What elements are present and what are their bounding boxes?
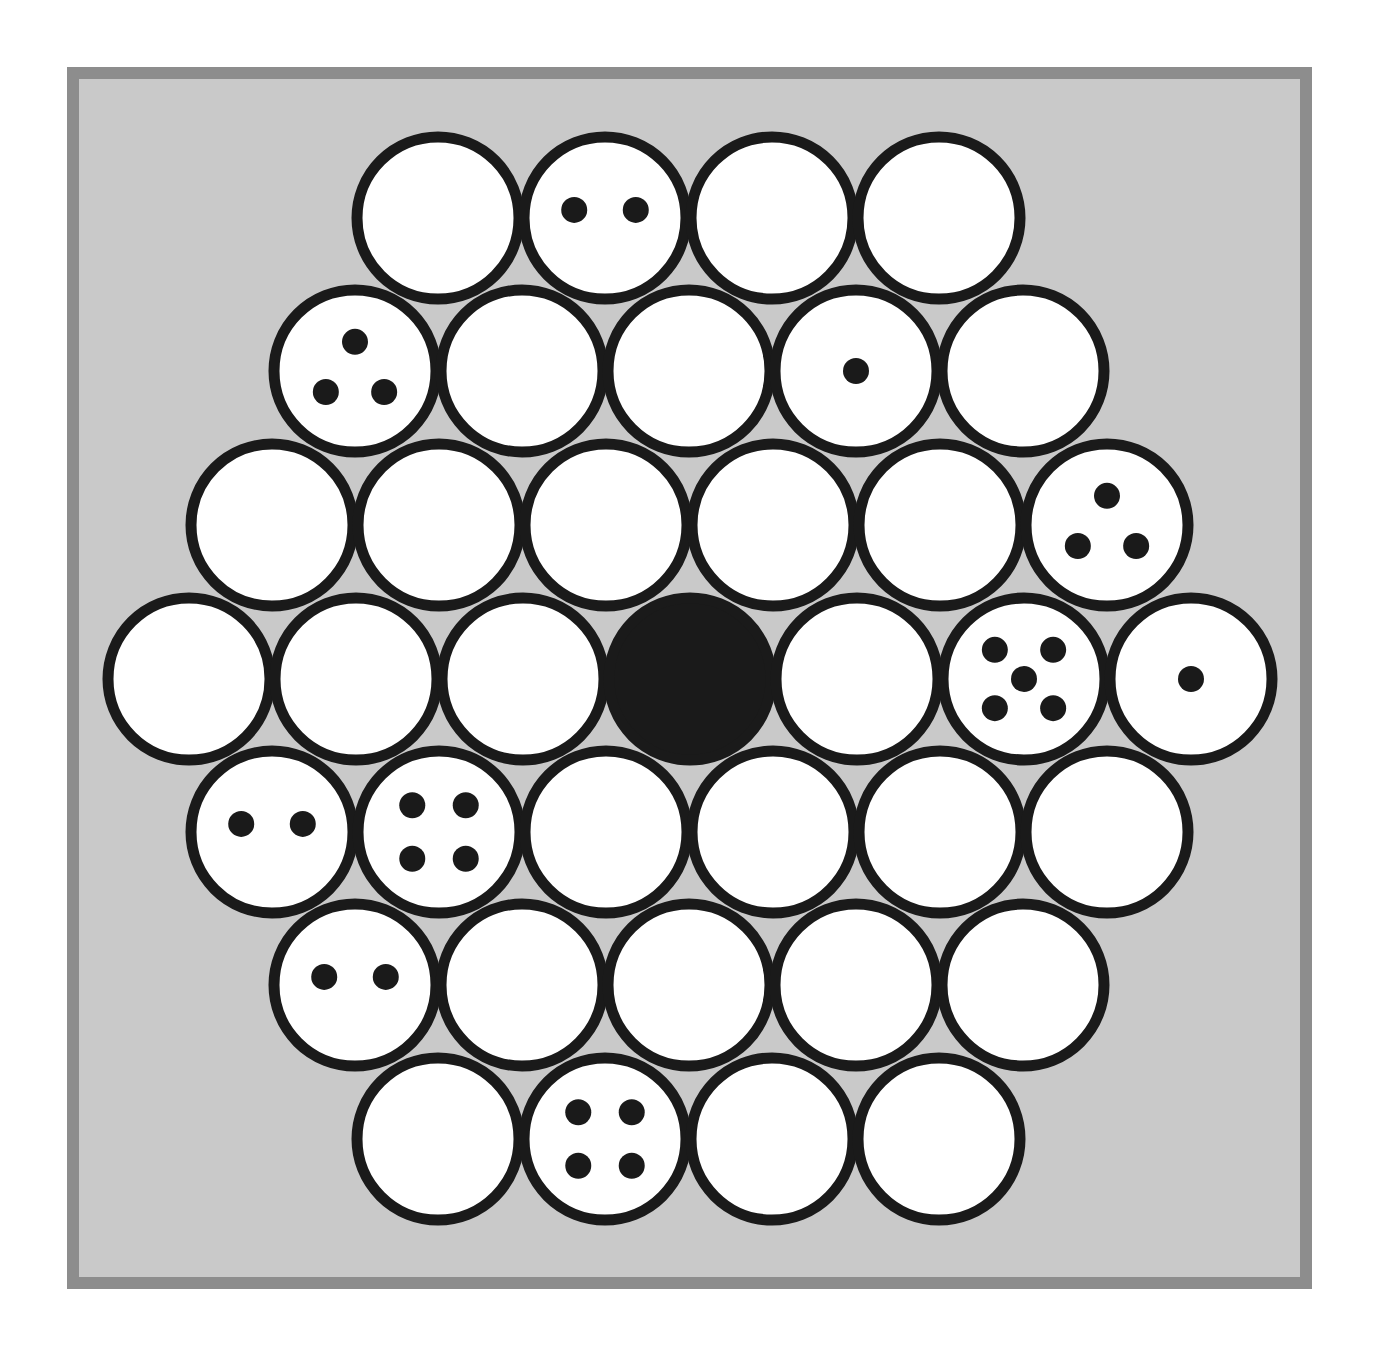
pip-dot-icon xyxy=(561,197,587,223)
circle-outline xyxy=(108,598,270,760)
circle-packing-board xyxy=(0,0,1376,1357)
board-cell-empty[interactable] xyxy=(442,598,604,760)
pip-dot-icon xyxy=(342,329,368,355)
pip-dot-icon xyxy=(619,1153,645,1179)
pip-dot-icon xyxy=(565,1153,591,1179)
pip-dot-icon xyxy=(453,792,479,818)
board-cell-empty[interactable] xyxy=(775,904,937,1066)
circle-outline xyxy=(942,904,1104,1066)
circle-outline xyxy=(357,1058,519,1220)
board-cell-empty[interactable] xyxy=(691,1058,853,1220)
board-row xyxy=(191,444,1188,606)
pip-dot-icon xyxy=(1094,483,1120,509)
board-cell-empty[interactable] xyxy=(608,290,770,452)
board-cell-dots-4[interactable] xyxy=(524,1058,686,1220)
pip-dot-icon xyxy=(453,846,479,872)
circle-outline xyxy=(942,290,1104,452)
board-cell-dots-3[interactable] xyxy=(1026,444,1188,606)
board-cell-dots-1[interactable] xyxy=(1110,598,1272,760)
pip-dot-icon xyxy=(1065,533,1091,559)
circle-outline xyxy=(776,598,938,760)
board-cell-empty[interactable] xyxy=(1026,751,1188,913)
circle-outline xyxy=(274,290,436,452)
circle-outline xyxy=(358,444,520,606)
circle-outline xyxy=(775,904,937,1066)
circle-outline xyxy=(691,1058,853,1220)
pip-dot-icon xyxy=(313,379,339,405)
circle-outline xyxy=(609,598,771,760)
pip-dot-icon xyxy=(228,811,254,837)
circle-outline xyxy=(357,137,519,299)
pip-dot-icon xyxy=(399,792,425,818)
circle-outline xyxy=(275,598,437,760)
pip-dot-icon xyxy=(565,1099,591,1125)
board-cell-dots-4[interactable] xyxy=(358,751,520,913)
pip-dot-icon xyxy=(1011,666,1037,692)
board-cell-empty[interactable] xyxy=(441,904,603,1066)
circle-outline xyxy=(191,751,353,913)
board-cell-empty[interactable] xyxy=(275,598,437,760)
screenshot-root xyxy=(0,0,1376,1357)
circle-outline xyxy=(692,444,854,606)
board-row xyxy=(357,1058,1020,1220)
circle-outline xyxy=(858,137,1020,299)
pip-dot-icon xyxy=(843,358,869,384)
circle-outline xyxy=(191,444,353,606)
board-cell-empty[interactable] xyxy=(858,137,1020,299)
board-row xyxy=(274,290,1104,452)
circle-outline xyxy=(858,1058,1020,1220)
circle-outline xyxy=(442,598,604,760)
board-cell-empty[interactable] xyxy=(358,444,520,606)
circle-outline xyxy=(441,904,603,1066)
board-cell-empty[interactable] xyxy=(942,904,1104,1066)
board-cell-dots-3[interactable] xyxy=(274,290,436,452)
board-row xyxy=(274,904,1104,1066)
pip-dot-icon xyxy=(619,1099,645,1125)
board-cell-filled[interactable] xyxy=(609,598,771,760)
pip-dot-icon xyxy=(1040,637,1066,663)
board-row xyxy=(357,137,1020,299)
board-cell-empty[interactable] xyxy=(858,1058,1020,1220)
circle-outline xyxy=(358,751,520,913)
board-cell-dots-1[interactable] xyxy=(775,290,937,452)
pip-dot-icon xyxy=(371,379,397,405)
circle-outline xyxy=(524,1058,686,1220)
circle-outline xyxy=(524,137,686,299)
circle-outline xyxy=(525,444,687,606)
board-cell-empty[interactable] xyxy=(525,751,687,913)
board-cell-empty[interactable] xyxy=(191,444,353,606)
pip-dot-icon xyxy=(1178,666,1204,692)
pip-dot-icon xyxy=(623,197,649,223)
board-cell-empty[interactable] xyxy=(357,1058,519,1220)
board-cell-empty[interactable] xyxy=(859,444,1021,606)
board-cell-empty[interactable] xyxy=(691,137,853,299)
board-cell-empty[interactable] xyxy=(692,751,854,913)
board-cell-empty[interactable] xyxy=(608,904,770,1066)
board-cell-empty[interactable] xyxy=(942,290,1104,452)
board-cell-empty[interactable] xyxy=(525,444,687,606)
pip-dot-icon xyxy=(290,811,316,837)
board-cell-empty[interactable] xyxy=(859,751,1021,913)
board-cell-dots-2[interactable] xyxy=(274,904,436,1066)
board-cell-empty[interactable] xyxy=(357,137,519,299)
pip-dot-icon xyxy=(982,637,1008,663)
board-cell-dots-5[interactable] xyxy=(943,598,1105,760)
pip-dot-icon xyxy=(311,964,337,990)
circle-outline xyxy=(441,290,603,452)
circle-outline xyxy=(608,290,770,452)
board-cell-empty[interactable] xyxy=(776,598,938,760)
board-cell-dots-2[interactable] xyxy=(524,137,686,299)
circle-outline xyxy=(1026,444,1188,606)
pip-dot-icon xyxy=(982,695,1008,721)
circle-outline xyxy=(1026,751,1188,913)
circle-outline xyxy=(691,137,853,299)
board-row xyxy=(108,598,1272,760)
circle-outline xyxy=(525,751,687,913)
circle-outline xyxy=(608,904,770,1066)
board-row xyxy=(191,751,1188,913)
pip-dot-icon xyxy=(399,846,425,872)
board-cell-empty[interactable] xyxy=(692,444,854,606)
board-cell-empty[interactable] xyxy=(108,598,270,760)
board-cell-dots-2[interactable] xyxy=(191,751,353,913)
board-cell-empty[interactable] xyxy=(441,290,603,452)
